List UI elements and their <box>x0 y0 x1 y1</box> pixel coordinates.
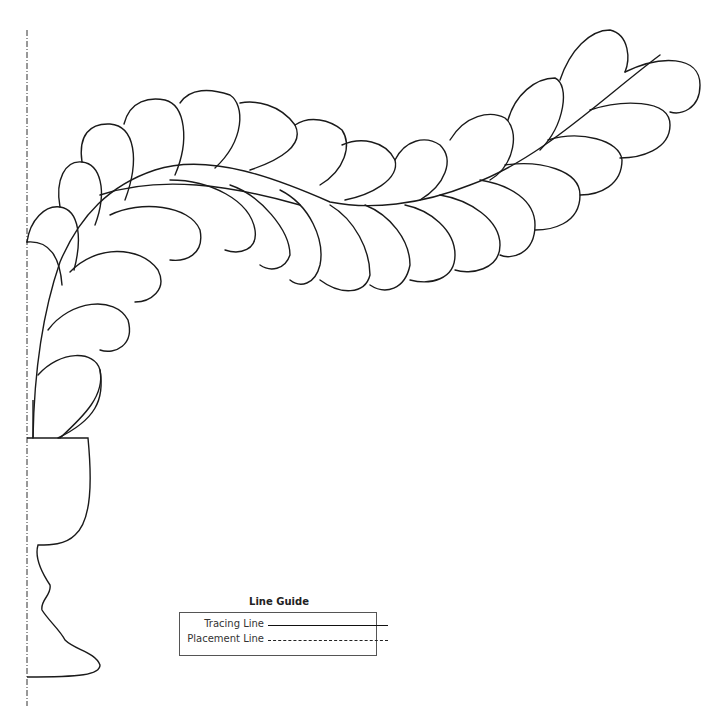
feather-plume-23 <box>230 185 290 269</box>
placement-line-label: Placement Line <box>180 633 268 644</box>
placement-line-sample <box>268 640 388 641</box>
tracing-line-label: Tracing Line <box>180 618 268 629</box>
line-guide-box: Tracing Line Placement Line <box>179 612 377 656</box>
feather-plume-16 <box>505 164 580 230</box>
feather-plume-1 <box>27 207 78 270</box>
line-guide-row-tracing: Tracing Line <box>180 618 388 629</box>
feather-plume-26 <box>70 251 161 302</box>
feather-plume-7 <box>295 120 346 185</box>
feather-plume-8 <box>342 141 396 200</box>
feather-plume-21 <box>320 205 370 291</box>
feather-plume-27 <box>48 304 129 351</box>
feather-plume <box>27 30 700 438</box>
feather-plume-2 <box>59 162 102 225</box>
feather-plume-20 <box>365 205 410 290</box>
feather-spine <box>33 55 660 438</box>
feather-plume-19 <box>405 205 455 282</box>
feather-plume-12 <box>560 30 628 80</box>
vase-outline <box>27 438 100 677</box>
feather-plume-9 <box>395 140 447 200</box>
feather-plume-13 <box>625 61 700 113</box>
feather-plume-6 <box>240 102 297 170</box>
feather-plume-15 <box>548 136 622 195</box>
feather-plume-28 <box>38 356 101 438</box>
feather-plume-5 <box>180 90 240 168</box>
tracing-line-sample <box>268 625 388 626</box>
line-guide-title: Line Guide <box>179 596 379 607</box>
feather-plume-14 <box>590 103 670 158</box>
line-guide-row-placement: Placement Line <box>180 633 388 644</box>
feather-plume-11 <box>508 78 563 150</box>
